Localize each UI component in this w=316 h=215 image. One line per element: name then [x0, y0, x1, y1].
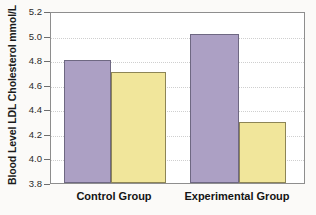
y-axis-tick-mark — [44, 184, 50, 185]
y-axis-tick-label: 3.8 — [0, 178, 42, 189]
bar-series-b-control-group — [111, 72, 166, 183]
bar-series-b-experimental-group — [239, 122, 286, 183]
y-axis-tick-label: 5.0 — [0, 31, 42, 42]
x-axis-label-experimental-group: Experimental Group — [184, 190, 289, 202]
y-axis-tick-label: 4.0 — [0, 153, 42, 164]
gridline — [51, 38, 304, 39]
y-axis-tick-label: 4.8 — [0, 55, 42, 66]
y-axis-tick-label: 5.2 — [0, 6, 42, 17]
y-axis-tick-label: 4.4 — [0, 104, 42, 115]
plot-area — [50, 12, 305, 184]
y-axis-tick-label: 4.2 — [0, 129, 42, 140]
bar-series-a-control-group — [64, 60, 111, 183]
chart-figure: Blood Level LDL Cholesterol mmol/L 3.84.… — [0, 0, 316, 215]
x-axis-label-control-group: Control Group — [76, 190, 151, 202]
y-axis-tick-label: 4.6 — [0, 80, 42, 91]
bar-series-a-experimental-group — [190, 34, 239, 183]
plot-inner — [51, 13, 304, 183]
